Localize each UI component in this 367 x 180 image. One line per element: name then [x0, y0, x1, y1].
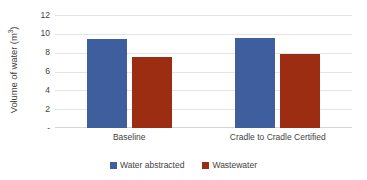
plot-area [55, 15, 352, 128]
y-axis-tick-label: 10 [28, 29, 50, 38]
x-axis-category-labels: BaselineCradle to Cradle Certified [55, 131, 352, 145]
bar [280, 54, 320, 128]
bar [87, 39, 127, 128]
chart-legend: Water abstractedWastewater [0, 157, 367, 173]
y-axis-title-superscript: 3 [7, 30, 14, 34]
y-axis-title: Volume of water (m3) [6, 15, 22, 125]
legend-swatch-icon [110, 162, 117, 169]
y-axis-title-tail: ) [8, 27, 19, 30]
legend-swatch-icon [202, 162, 209, 169]
bar-chart: Volume of water (m3) 12108642- BaselineC… [0, 0, 367, 180]
legend-item[interactable]: Water abstracted [110, 160, 184, 170]
y-axis-tick-label: 6 [28, 67, 50, 76]
legend-item[interactable]: Wastewater [202, 160, 257, 170]
y-axis-tick-label: 2 [28, 105, 50, 114]
legend-label: Water abstracted [120, 160, 184, 170]
gridline [55, 15, 352, 16]
y-axis-title-base: Volume of water (m [8, 33, 19, 113]
bar [132, 57, 172, 128]
legend-label: Wastewater [212, 160, 257, 170]
x-axis-category-label: Cradle to Cradle Certified [204, 131, 353, 143]
x-axis-category-label: Baseline [55, 131, 204, 143]
y-axis-tick-label: - [28, 124, 50, 133]
bar [235, 38, 275, 128]
y-axis-tick-label: 12 [28, 11, 50, 20]
y-axis-tick-labels: 12108642- [22, 15, 50, 128]
y-axis-tick-label: 4 [28, 86, 50, 95]
y-axis-tick-label: 8 [28, 48, 50, 57]
gridline [55, 34, 352, 35]
